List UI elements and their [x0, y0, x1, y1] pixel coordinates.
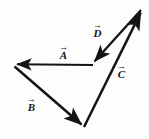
- vector-d-letter: D: [93, 28, 102, 39]
- vector-b-letter: B: [27, 102, 36, 113]
- vector-c-label: → C: [117, 64, 126, 80]
- vector-c-letter: C: [117, 69, 126, 80]
- vector-canvas: [0, 0, 149, 139]
- vector-diagram-figure: → A → B → C → D: [0, 0, 149, 139]
- vector-d-label: → D: [93, 23, 102, 39]
- vector-a-letter: A: [59, 50, 68, 61]
- vector-a-line: [17, 64, 93, 65]
- vector-a-label: → A: [59, 45, 68, 61]
- vector-b-label: → B: [27, 97, 36, 113]
- vector-b-line: [15, 67, 82, 125]
